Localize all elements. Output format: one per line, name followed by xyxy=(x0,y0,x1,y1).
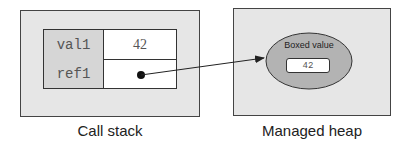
boxed-value-field: 42 xyxy=(286,58,330,73)
call-stack-caption: Call stack xyxy=(20,122,200,139)
managed-heap-caption: Managed heap xyxy=(233,122,391,139)
reference-arrow-icon xyxy=(141,58,264,75)
diagram-overlay xyxy=(0,0,399,142)
boxed-value-label: Boxed value xyxy=(266,40,352,50)
